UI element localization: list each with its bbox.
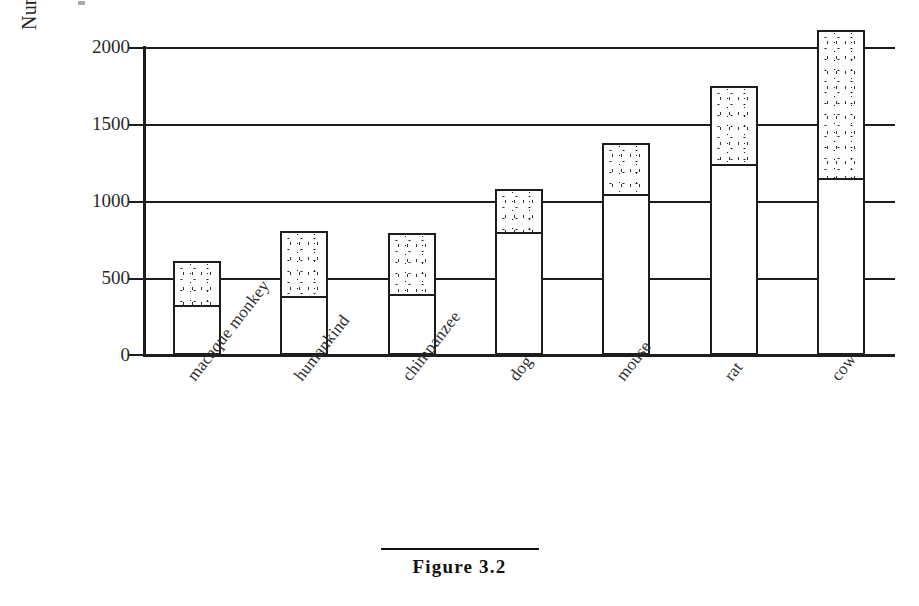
bar-segment-functional-dog — [495, 232, 543, 355]
y-axis-title: Number of olfactory genes — [18, 0, 48, 70]
bar-segment-functional-cow — [817, 178, 865, 355]
bar-mouse — [602, 143, 650, 355]
bar-rat — [710, 86, 758, 355]
bar-segment-functional-rat — [710, 164, 758, 355]
caption-rule — [381, 548, 539, 550]
bar-segment-pseudogene-humankind — [280, 231, 328, 298]
figure-3-2: Number of olfactory genes 2000 1500 1000… — [0, 0, 919, 606]
tickmark-2000 — [129, 47, 143, 49]
bar-segment-pseudogene-rat — [710, 86, 758, 166]
y-tick-label-2000: 2000 — [72, 37, 130, 56]
tickmark-1000 — [129, 201, 143, 203]
figure-caption-text: Figure 3.2 — [0, 556, 919, 578]
bar-segment-pseudogene-macaque-monkey — [173, 261, 221, 307]
bar-dog — [495, 189, 543, 355]
bar-segment-pseudogene-cow — [817, 30, 865, 180]
tickmark-0 — [129, 354, 143, 356]
x-axis-category-labels: macaque monkeyhumankindchimpanzeedogmous… — [143, 355, 919, 535]
x-label-cow: cow — [827, 350, 861, 385]
bar-segment-pseudogene-dog — [495, 189, 543, 234]
bar-segment-pseudogene-mouse — [602, 143, 650, 196]
y-tick-label-1500: 1500 — [72, 114, 130, 133]
bar-segment-functional-mouse — [602, 194, 650, 355]
x-label-rat: rat — [720, 358, 747, 385]
x-label-dog: dog — [505, 352, 537, 385]
y-tick-label-0: 0 — [72, 345, 130, 364]
bar-segment-pseudogene-chimpanzee — [388, 233, 436, 297]
y-tick-label-1000: 1000 — [72, 191, 130, 210]
tickmark-500 — [129, 278, 143, 280]
y-axis-tick-labels: 2000 1500 1000 500 0 — [60, 0, 130, 400]
figure-caption-block: Figure 3.2 — [0, 548, 919, 578]
tickmark-1500 — [129, 124, 143, 126]
y-tick-label-500: 500 — [72, 268, 130, 287]
bar-cow — [817, 30, 865, 355]
